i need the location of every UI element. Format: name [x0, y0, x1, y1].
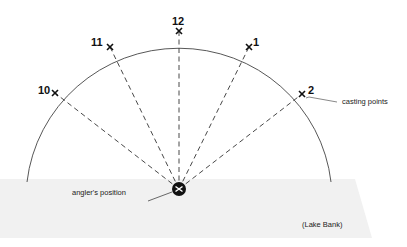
point-label-12: 12 [172, 16, 184, 27]
star-marker-icon [299, 91, 305, 97]
point-label-10: 10 [38, 85, 50, 96]
cast-lines [55, 31, 302, 189]
star-marker-icon [246, 44, 252, 50]
casting-points-label: casting points [342, 98, 388, 106]
point-label-11: 11 [91, 37, 103, 48]
point-label-2: 2 [308, 85, 314, 96]
star-marker-icon [107, 44, 113, 50]
point-label-1: 1 [253, 37, 259, 48]
lake-bank [0, 179, 372, 238]
star-marker-icon [52, 90, 58, 96]
angler-position-label: angler's position [72, 189, 126, 197]
lake-bank-label: (Lake Bank) [302, 221, 342, 229]
casting-point-markers [52, 28, 305, 97]
casting-points-leader [306, 97, 337, 102]
casting-diagram: 10 11 12 1 2 casting points angler's pos… [0, 0, 407, 247]
angler-icon [172, 182, 186, 196]
diagram-canvas [0, 0, 407, 247]
